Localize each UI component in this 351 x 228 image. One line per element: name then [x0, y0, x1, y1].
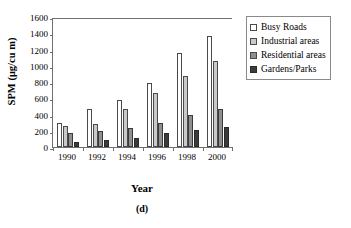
x-axis-tick-mark: [232, 147, 233, 151]
legend-label: Industrial areas: [261, 36, 319, 46]
bar: [134, 138, 139, 147]
x-axis-tick-label: 2000: [197, 152, 237, 162]
x-axis-tick-mark: [173, 147, 174, 151]
bar-group: [203, 19, 233, 147]
plot-area: [52, 18, 232, 148]
x-axis-tick-labels: 199019921994199619982000: [52, 152, 232, 166]
legend-swatch-icon: [250, 24, 257, 31]
y-axis-tick-label: 1400: [18, 30, 48, 39]
y-axis-tick-label: 0: [18, 144, 48, 153]
x-axis-title: Year: [52, 182, 232, 194]
x-axis-tick-mark: [203, 147, 204, 151]
bar: [87, 109, 92, 147]
bar-group: [173, 19, 203, 147]
bar: [194, 130, 199, 147]
y-axis-tick-label: 200: [18, 127, 48, 136]
legend-item[interactable]: Residential areas: [250, 48, 326, 62]
bar: [123, 109, 128, 147]
legend-swatch-icon: [250, 38, 257, 45]
y-axis-tick-label: 1200: [18, 46, 48, 55]
bar: [158, 123, 163, 147]
bar-group: [53, 19, 83, 147]
y-axis-title: SPM (μg/cu m): [6, 14, 17, 130]
legend-item[interactable]: Busy Roads: [250, 20, 326, 34]
legend-item[interactable]: Gardens/Parks: [250, 62, 326, 76]
y-axis-tick-label: 1600: [18, 14, 48, 23]
bar: [207, 36, 212, 147]
bar: [213, 61, 218, 147]
legend-label: Residential areas: [261, 50, 326, 60]
y-axis-tick-label: 400: [18, 111, 48, 120]
bar: [74, 142, 79, 147]
plot-inner: [53, 19, 232, 147]
bar: [93, 124, 98, 147]
x-axis-tick-mark: [143, 147, 144, 151]
legend-swatch-icon: [250, 52, 257, 59]
bar: [117, 100, 122, 147]
x-axis-tick-mark: [113, 147, 114, 151]
bar: [57, 123, 62, 147]
chart-legend: Busy RoadsIndustrial areasResidential ar…: [246, 16, 331, 80]
y-axis-tick-labels: 02004006008001000120014001600: [18, 13, 48, 149]
figure-caption: (d): [52, 203, 232, 214]
legend-label: Gardens/Parks: [261, 64, 316, 74]
bar: [177, 53, 182, 147]
bar-group: [113, 19, 143, 147]
legend-swatch-icon: [250, 66, 257, 73]
chart-figure: SPM (μg/cu m) 02004006008001000120014001…: [0, 0, 351, 228]
bar-group: [83, 19, 113, 147]
bar: [218, 109, 223, 147]
bar: [153, 93, 158, 147]
y-axis-tick-label: 800: [18, 79, 48, 88]
bar: [104, 140, 109, 147]
bar: [128, 128, 133, 147]
bar: [63, 126, 68, 147]
x-axis-tick-mark: [53, 147, 54, 151]
bar: [183, 76, 188, 147]
bar: [98, 131, 103, 147]
bar: [68, 133, 73, 147]
bar: [188, 115, 193, 147]
y-axis-tick-label: 600: [18, 95, 48, 104]
x-axis-tick-mark: [83, 147, 84, 151]
bar-group: [143, 19, 173, 147]
bar: [147, 83, 152, 147]
legend-item[interactable]: Industrial areas: [250, 34, 326, 48]
y-axis-tick-label: 1000: [18, 62, 48, 71]
legend-label: Busy Roads: [261, 22, 307, 32]
bar: [164, 133, 169, 147]
bar: [224, 127, 229, 147]
